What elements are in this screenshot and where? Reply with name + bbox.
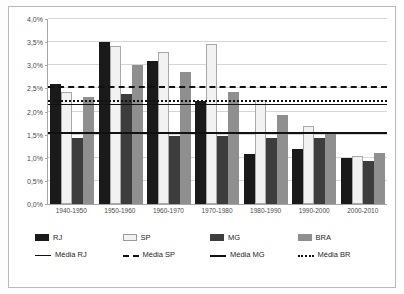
legend-row-averages: Média RJMédia SPMédia MGMédia BR — [35, 246, 385, 263]
bar-bra — [374, 153, 385, 204]
bar-group — [193, 19, 241, 204]
legend-label: Média BR — [318, 250, 351, 259]
plot-area: 0,0%0,5%1,0%1,5%2,0%2,5%3,0%3,5%4,0% — [47, 19, 387, 205]
bar-group — [145, 19, 193, 204]
legend-label: Média MG — [230, 250, 265, 259]
x-axis-tick-label: 1970-1980 — [193, 207, 242, 214]
y-axis-tick-label: 2,0% — [27, 108, 43, 115]
legend-label: SP — [141, 233, 151, 242]
bar-rj — [341, 158, 352, 204]
x-axis-tick-label: 1990-2000 — [290, 207, 339, 214]
reference-line-media-rj — [48, 104, 387, 105]
x-axis-labels: 1940-19501950-19601960-19701970-19801980… — [47, 207, 387, 214]
x-axis-tick-label: 1950-1960 — [96, 207, 145, 214]
bars-layer — [48, 19, 387, 204]
bar-rj — [292, 149, 303, 205]
bar-bra — [277, 115, 288, 204]
legend-swatch-icon — [298, 234, 312, 241]
legend-row-series: RJSPMGBRA — [35, 229, 385, 246]
legend-item-rj[interactable]: RJ — [35, 233, 123, 242]
bar-sp — [110, 46, 121, 204]
bar-group — [96, 19, 144, 204]
legend-label: RJ — [53, 233, 62, 242]
chart-frame: 0,0%0,5%1,0%1,5%2,0%2,5%3,0%3,5%4,0% 194… — [8, 6, 396, 288]
legend-line-icon — [210, 251, 226, 258]
y-axis-tick-label: 0,5% — [27, 177, 43, 184]
bar-mg — [72, 138, 83, 204]
legend-label: Média RJ — [55, 250, 87, 259]
reference-line-media-br — [48, 100, 387, 102]
bar-mg — [169, 136, 180, 204]
bar-bra — [180, 72, 191, 204]
x-axis-tick-label: 1980-1990 — [241, 207, 290, 214]
legend-item-media-br[interactable]: Média BR — [298, 250, 386, 259]
x-axis-tick-label: 1960-1970 — [144, 207, 193, 214]
y-axis-tick-label: 2,5% — [27, 85, 43, 92]
reference-line-media-mg — [48, 132, 387, 134]
y-axis-tick-label: 4,0% — [27, 16, 43, 23]
bar-group — [290, 19, 338, 204]
legend-label: MG — [228, 233, 240, 242]
y-axis-tick-label: 1,0% — [27, 154, 43, 161]
legend-label: BRA — [316, 233, 331, 242]
bar-bra — [83, 97, 94, 204]
y-axis-tick-label: 3,5% — [27, 39, 43, 46]
legend-item-bra[interactable]: BRA — [298, 233, 386, 242]
bar-mg — [266, 138, 277, 204]
legend-swatch-icon — [210, 234, 224, 241]
y-axis-tick-label: 3,0% — [27, 62, 43, 69]
bar-mg — [121, 94, 132, 204]
y-axis-tick-label: 0,0% — [27, 201, 43, 208]
legend-line-icon — [35, 251, 51, 258]
bar-group — [339, 19, 387, 204]
legend-item-media-mg[interactable]: Média MG — [210, 250, 298, 259]
bar-rj — [195, 101, 206, 204]
bar-mg — [363, 161, 374, 204]
legend-line-icon — [298, 251, 314, 258]
x-axis-tick-label: 2000-2010 — [338, 207, 387, 214]
bar-bra — [325, 132, 336, 204]
legend-swatch-icon — [35, 234, 49, 241]
chart-figure: 0,0%0,5%1,0%1,5%2,0%2,5%3,0%3,5%4,0% 194… — [0, 0, 404, 294]
legend-item-sp[interactable]: SP — [123, 233, 211, 242]
bar-rj — [99, 42, 110, 204]
bar-sp — [158, 52, 169, 204]
bar-mg — [314, 138, 325, 204]
legend-line-icon — [123, 251, 139, 258]
legend-item-media-sp[interactable]: Média SP — [123, 250, 211, 259]
legend-item-mg[interactable]: MG — [210, 233, 298, 242]
x-axis-tick-label: 1940-1950 — [47, 207, 96, 214]
bar-sp — [206, 44, 217, 204]
y-axis-tick-label: 1,5% — [27, 131, 43, 138]
bar-rj — [244, 154, 255, 204]
bar-group — [242, 19, 290, 204]
legend-item-media-rj[interactable]: Média RJ — [35, 250, 123, 259]
bar-bra — [228, 92, 239, 204]
bar-sp — [352, 156, 363, 204]
bar-group — [48, 19, 96, 204]
y-axis-tick-mark — [45, 204, 48, 205]
bar-mg — [217, 136, 228, 204]
reference-line-media-sp — [48, 86, 387, 88]
bar-sp — [61, 92, 72, 204]
legend-swatch-icon — [123, 234, 137, 241]
legend-label: Média SP — [143, 250, 176, 259]
bar-sp — [255, 100, 266, 204]
bar-sp — [303, 126, 314, 204]
chart-legend: RJSPMGBRA Média RJMédia SPMédia MGMédia … — [35, 229, 385, 263]
